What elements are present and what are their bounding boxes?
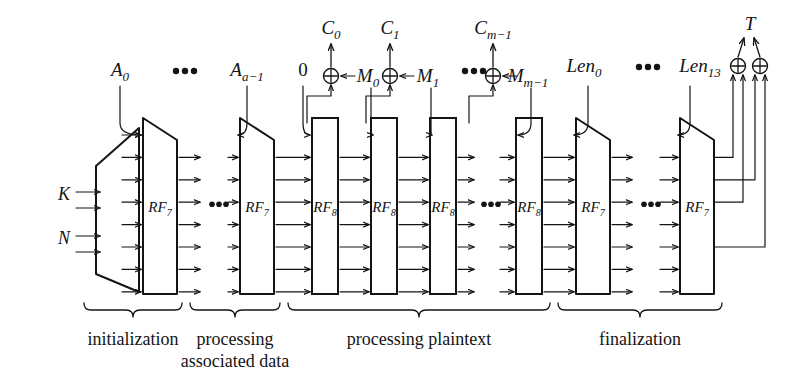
final-label-ellipsis-dot-1 [645,64,651,70]
label-zero: 0 [298,59,308,80]
stage-label-associated-data-line2: associated data [181,351,289,371]
final-ellipsis-dot-1 [648,201,654,207]
final-label-ellipsis-dot-0 [636,64,642,70]
aead-construction-diagram: KNRF7RF7RF8RF8RF8RF8RF7RF7A0Aa−10C0M0C1M… [0,0,797,384]
stage-label-initialization: initialization [88,329,179,349]
final-ellipsis-dot-0 [641,201,647,207]
key-label: K [57,184,71,204]
plaintext-ellipsis-dot-1 [488,201,494,207]
nonce-label: N [57,228,71,248]
ad-label-ellipsis-dot-1 [182,68,188,74]
plaintext-label-ellipsis-dot-2 [480,68,486,74]
stage-label-associated-data: processing [197,329,274,349]
ad-label-ellipsis-dot-2 [191,68,197,74]
plaintext-label-ellipsis-dot-1 [471,68,477,74]
ad-label-ellipsis-dot-0 [173,68,179,74]
label-tag-T: T [745,13,757,34]
plaintext-ellipsis-dot-0 [481,201,487,207]
stage-label-finalization: finalization [599,329,681,349]
diagram-canvas: KNRF7RF7RF8RF8RF8RF8RF7RF7A0Aa−10C0M0C1M… [0,0,797,384]
ad-ellipsis-dot-0 [209,201,215,207]
plaintext-label-ellipsis-dot-0 [462,68,468,74]
ad-ellipsis-dot-1 [216,201,222,207]
background [0,0,797,384]
stage-label-plaintext: processing plaintext [347,329,491,349]
final-label-ellipsis-dot-2 [654,64,660,70]
